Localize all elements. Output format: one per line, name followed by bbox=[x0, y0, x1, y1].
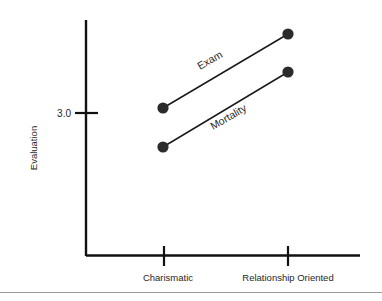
data-point-exam-relationship-oriented bbox=[282, 28, 293, 39]
data-point-exam-charismatic bbox=[157, 102, 168, 113]
x-axis-label-charismatic: Charismatic bbox=[143, 272, 193, 283]
chart-figure: Exam Mortality 3.0 Evaluation Charismati… bbox=[0, 0, 382, 301]
y-axis-title: Evaluation bbox=[28, 126, 39, 170]
line-chart-svg: Exam Mortality 3.0 Evaluation Charismati… bbox=[0, 0, 382, 301]
data-point-mortality-charismatic bbox=[157, 141, 168, 152]
data-point-mortality-relationship-oriented bbox=[282, 66, 293, 77]
y-axis-tick-label-3-0: 3.0 bbox=[57, 108, 71, 119]
x-axis-label-relationship-oriented: Relationship Oriented bbox=[242, 272, 333, 283]
